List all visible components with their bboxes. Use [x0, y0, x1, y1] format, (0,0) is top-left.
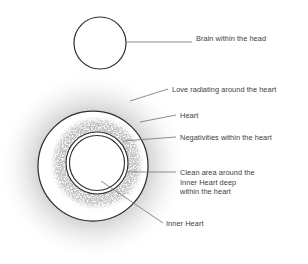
label-heart: Heart: [180, 111, 198, 121]
label-negativities-within-the-heart: Negativities within the heart: [180, 133, 272, 143]
inner-heart-rings: [66, 132, 128, 194]
label-clean-area-around-inner-heart: Clean area around the Inner Heart deep w…: [180, 168, 255, 197]
brain-circle: [74, 17, 126, 69]
label-inner-heart: Inner Heart: [166, 219, 204, 229]
diagram-canvas: Brain within the head Love radiating aro…: [0, 0, 308, 264]
label-love-radiating-around-the-heart: Love radiating around the heart: [172, 85, 276, 95]
label-brain-within-the-head: Brain within the head: [196, 34, 266, 44]
